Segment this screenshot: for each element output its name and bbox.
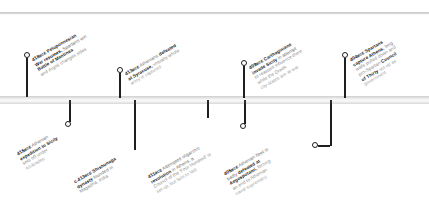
event-label-415: 415BCE Athenian expedition to Sicily set…	[16, 131, 64, 172]
event-label-411: 411BCE Attempted oligarchic revolution i…	[147, 142, 215, 194]
event-label-413: 413BCE Athenians defeated at Syracuse, v…	[124, 43, 183, 87]
timeline-diagram: 418BCE Peloponnesian War resumes, Sparta…	[0, 0, 429, 211]
top-divider-rule	[0, 12, 429, 15]
timeline-axis-hatching	[0, 99, 429, 104]
event-label-404: 404BCE Spartans capture Athens, long wal…	[349, 35, 406, 87]
event-label-405: 405BCE Athenian fleet is badly defeated …	[223, 147, 281, 197]
event-label-418: 418BCE Peloponnesian War resumes, Sparta…	[31, 29, 93, 78]
event-label-413c: c.413BCE Shishunaga dynasty founded in M…	[73, 156, 123, 195]
event-label-409: 409BCE Carthaginians invade Sicily in at…	[248, 39, 309, 91]
